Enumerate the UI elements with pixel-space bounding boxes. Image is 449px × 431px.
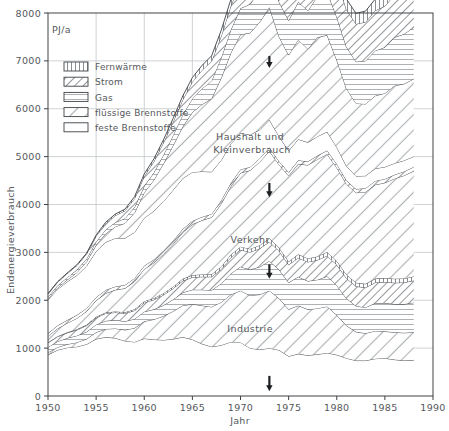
x-tick-label: 1960 bbox=[132, 402, 157, 413]
y-tick-label: 8000 bbox=[16, 8, 41, 19]
legend-swatch-horizontal-lines bbox=[64, 92, 88, 101]
y-tick-label: 5000 bbox=[16, 151, 41, 162]
legend-label: Strom bbox=[95, 77, 123, 87]
sector-label: Verkehr bbox=[231, 234, 270, 245]
x-tick-label: 1970 bbox=[228, 402, 253, 413]
legend-swatch-blank bbox=[64, 123, 88, 132]
legend-swatch-diagonal-hatch-narrow bbox=[64, 77, 88, 86]
x-tick-label: 1965 bbox=[180, 402, 205, 413]
x-tick-label: 1990 bbox=[420, 402, 445, 413]
x-axis-ticks: 195019551960196519701975198019851990 bbox=[35, 396, 445, 413]
y-axis-unit-label: PJ/a bbox=[52, 24, 71, 35]
legend-label: feste Brennstoffe bbox=[95, 123, 176, 133]
legend-swatch-vertical-hatch bbox=[64, 62, 88, 71]
legend-swatch-diagonal-hatch-wide bbox=[64, 108, 88, 117]
sector-label: Kleinverbrauch bbox=[213, 144, 290, 155]
x-tick-label: 1950 bbox=[35, 402, 60, 413]
x-tick-label: 1975 bbox=[276, 402, 301, 413]
chart-figure: 010002000300040005000600070008000 195019… bbox=[0, 0, 449, 431]
y-axis-title: Endenergieverbrauch bbox=[5, 186, 16, 294]
sector-label: Haushalt und bbox=[216, 131, 284, 142]
y-axis-ticks: 010002000300040005000600070008000 bbox=[16, 8, 48, 402]
y-tick-label: 6000 bbox=[16, 103, 41, 114]
x-tick-label: 1955 bbox=[83, 402, 108, 413]
x-tick-label: 1980 bbox=[324, 402, 349, 413]
legend-label: Fernwärme bbox=[95, 62, 147, 72]
y-tick-label: 2000 bbox=[16, 295, 41, 306]
y-tick-label: 3000 bbox=[16, 247, 41, 258]
legend-label: Gas bbox=[95, 93, 113, 103]
x-tick-label: 1985 bbox=[372, 402, 397, 413]
x-axis-title: Jahr bbox=[229, 415, 250, 426]
legend-label: flüssige Brennstoffe bbox=[95, 108, 189, 118]
y-tick-label: 1000 bbox=[16, 343, 41, 354]
y-tick-label: 7000 bbox=[16, 55, 41, 66]
sector-label: Industrie bbox=[227, 323, 273, 334]
y-tick-label: 4000 bbox=[16, 199, 41, 210]
y-tick-label: 0 bbox=[35, 391, 41, 402]
energy-consumption-area-chart: 010002000300040005000600070008000 195019… bbox=[0, 0, 449, 431]
